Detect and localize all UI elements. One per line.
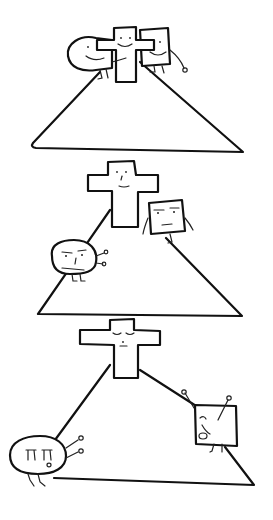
- square-annoyed: [143, 200, 193, 243]
- panel-3: [10, 319, 254, 486]
- hill-1: [32, 62, 243, 152]
- blob-annoyed: [52, 240, 108, 281]
- panel-1: [32, 27, 243, 152]
- square-crying: [182, 390, 237, 452]
- panel-2: [38, 161, 242, 316]
- cross-calm: [88, 161, 158, 227]
- cross-eyes-closed: [80, 319, 160, 378]
- three-panel-comic: · · · · · · · · · · ·: [0, 0, 273, 520]
- comic-drawing: [0, 0, 273, 520]
